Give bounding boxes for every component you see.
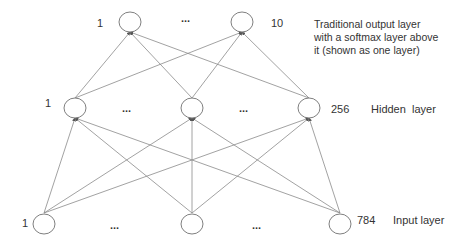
hidden-first-index: 1 [45, 97, 51, 110]
input-node-784 [329, 214, 351, 234]
edges-hidden-to-output [75, 32, 309, 98]
edges-input-to-hidden [44, 118, 340, 213]
output-node-1 [119, 12, 141, 32]
input-ellipsis-left: ... [110, 219, 119, 231]
input-node-1 [33, 214, 55, 234]
hidden-layer-description: Hidden layer [371, 103, 436, 116]
hidden-node-256 [298, 98, 320, 118]
input-last-index: 784 [357, 214, 375, 227]
input-ellipsis-right: ... [252, 219, 261, 231]
output-desc-line-3: it (shown as one layer) [314, 44, 420, 57]
output-node-10 [231, 12, 253, 32]
hidden-last-index: 256 [331, 103, 349, 116]
input-node-middle [181, 214, 203, 234]
hidden-node-1 [64, 98, 86, 118]
output-desc-line-2: with a softmax layer above [314, 31, 438, 44]
input-first-index: 1 [22, 217, 28, 230]
hidden-ellipsis-right: ... [239, 102, 248, 114]
output-first-index: 1 [97, 17, 103, 30]
output-desc-line-1: Traditional output layer [314, 18, 420, 31]
input-layer-description: Input layer [393, 214, 444, 227]
hidden-ellipsis-left: ... [122, 102, 131, 114]
output-last-index: 10 [271, 17, 283, 30]
output-ellipsis: ... [181, 12, 190, 24]
hidden-node-middle [181, 98, 203, 118]
